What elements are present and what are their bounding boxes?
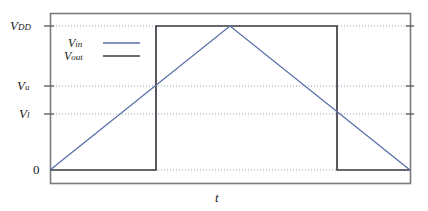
legend-v-out-sub: out (71, 52, 83, 62)
y-tick-vu-sub: u (25, 82, 30, 92)
legend-label-v-out: Vout (64, 49, 83, 64)
y-tick-label-vl: Vl (19, 107, 29, 120)
y-tick-vl-sub: l (27, 110, 30, 120)
x-axis-label: t (215, 190, 219, 206)
y-tick-label-zero: 0 (33, 163, 40, 176)
series-v-in (50, 26, 410, 170)
y-tick-vdd-base: V (10, 18, 18, 33)
y-tick-vdd-sub: DD (18, 22, 31, 32)
legend-v-in-sub: in (75, 39, 82, 49)
y-tick-label-vdd: VDD (10, 19, 31, 32)
plot-frame (51, 14, 411, 184)
series-v-out (50, 26, 410, 170)
y-tick-vu-base: V (17, 78, 25, 93)
chart-container: VDD Vu Vl 0 t Vin Vout (0, 0, 428, 211)
chart-plot-area (0, 0, 428, 211)
y-tick-vl-base: V (19, 106, 27, 121)
y-tick-label-vu: Vu (17, 79, 29, 92)
